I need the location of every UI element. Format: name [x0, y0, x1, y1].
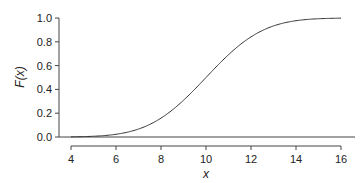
chart-container: 0.00.20.40.60.81.046810121416xF(x) [0, 0, 363, 183]
y-axis-label: F(x) [13, 66, 27, 87]
y-tick-label: 0.8 [37, 36, 52, 48]
x-tick-label: 14 [290, 153, 302, 165]
cdf-curve [71, 18, 341, 137]
x-tick-label: 12 [245, 153, 257, 165]
y-tick-label: 0.6 [37, 60, 52, 72]
cdf-chart: 0.00.20.40.60.81.046810121416xF(x) [0, 0, 363, 183]
x-tick-label: 8 [158, 153, 164, 165]
x-tick-label: 6 [113, 153, 119, 165]
x-tick-label: 16 [335, 153, 347, 165]
y-tick-label: 0.0 [37, 131, 52, 143]
x-tick-label: 10 [200, 153, 212, 165]
x-tick-label: 4 [68, 153, 74, 165]
y-tick-label: 0.2 [37, 107, 52, 119]
y-tick-label: 1.0 [37, 12, 52, 24]
x-axis-label: x [202, 167, 210, 181]
y-tick-label: 0.4 [37, 83, 52, 95]
